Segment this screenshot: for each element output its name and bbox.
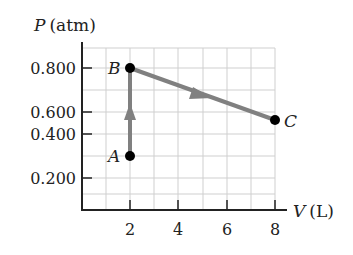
point-b [125,63,135,73]
point-a-label: A [106,146,120,166]
x-tick-4: 4 [173,220,183,239]
x-tick-2: 2 [125,220,135,239]
y-tick-0.800: 0.800 [30,59,76,78]
y-axis-label: P(atm) [33,15,96,35]
point-b-label: B [107,58,121,78]
arrow-right-icon [189,87,212,99]
point-c [270,115,280,125]
y-tick-0.200: 0.200 [30,169,76,188]
x-tick-8: 8 [270,220,280,239]
pv-diagram: P(atm) 0.800 0.600 0.400 0.200 2 4 6 8 V… [0,0,353,255]
x-axis-label: V(L) [293,201,334,221]
y-tick-0.600: 0.600 [30,103,76,122]
point-c-label: C [284,111,297,131]
point-a [125,151,135,161]
x-tick-6: 6 [222,220,232,239]
y-tick-0.400: 0.400 [30,125,76,144]
